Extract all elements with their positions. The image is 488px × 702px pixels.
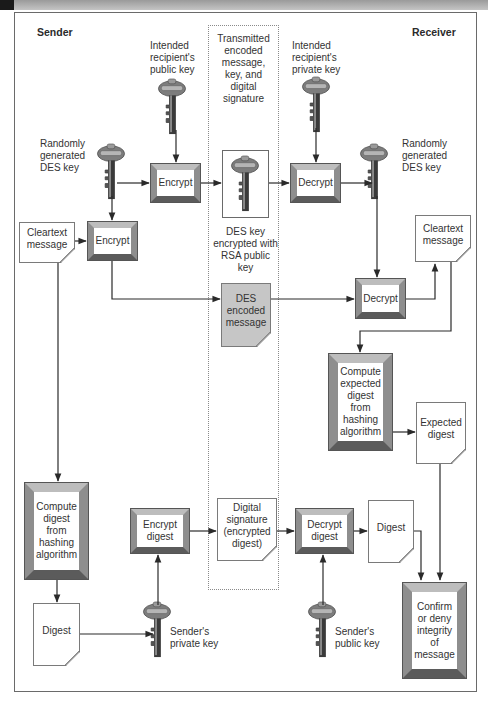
compute-digest-label: Compute digest from hashing algorithm: [34, 501, 79, 561]
digest-sender-label: Digest: [39, 625, 73, 645]
decrypt-digest-label: Decrypt digest: [302, 519, 347, 543]
encrypt-key-label: Encrypt: [159, 177, 193, 189]
recipient-public-key-label: Intended recipient's public key: [150, 40, 210, 76]
decrypt-message-label: Decrypt: [363, 293, 397, 305]
decrypt-key-label: Decrypt: [298, 177, 332, 189]
confirm-integrity-process: Confirm or deny integrity of message: [402, 582, 467, 679]
expected-digest-document: Expected digest: [416, 402, 466, 464]
digital-signature-document: Digital signature (encrypted digest): [217, 498, 277, 561]
decrypt-digest-process: Decrypt digest: [295, 508, 354, 554]
expected-digest-label: Expected digest: [417, 417, 465, 449]
digest-receiver-label: Digest: [374, 522, 408, 542]
encrypt-digest-label: Encrypt digest: [137, 519, 183, 543]
des-encoded-label: DES encoded message: [222, 293, 270, 337]
sender-public-key-label: Sender's public key: [335, 626, 385, 650]
decrypt-message-process: Decrypt: [355, 278, 406, 319]
receiver-des-key-label: Randomly generated DES key: [402, 138, 457, 174]
encrypt-message-process: Encrypt: [87, 221, 138, 261]
compute-expected-digest-process: Compute expected digest from hashing alg…: [328, 353, 393, 451]
sender-heading: Sender: [37, 26, 73, 38]
transmitted-label: Transmitted encoded message, key, and di…: [212, 33, 275, 105]
encrypt-message-label: Encrypt: [96, 235, 130, 247]
compute-expected-digest-label: Compute expected digest from hashing alg…: [338, 366, 383, 438]
encrypted-key-box: [222, 150, 269, 218]
encrypt-key-process: Encrypt: [150, 163, 201, 203]
recipient-private-key-label: Intended recipient's private key: [292, 40, 364, 76]
top-corner: [0, 0, 14, 10]
cleartext-message-sender: Cleartext message: [19, 222, 75, 263]
confirm-integrity-label: Confirm or deny integrity of message: [412, 601, 457, 661]
decrypt-key-process: Decrypt: [290, 163, 341, 203]
encrypt-digest-process: Encrypt digest: [130, 508, 190, 554]
digest-document-receiver: Digest: [368, 500, 414, 563]
receiver-heading: Receiver: [412, 26, 456, 38]
digest-document-sender: Digest: [33, 603, 80, 666]
cleartext-message-receiver: Cleartext message: [415, 215, 471, 262]
sender-des-key-label: Randomly generated DES key: [40, 138, 95, 174]
top-band: [0, 0, 488, 10]
sender-private-key-label: Sender's private key: [170, 626, 220, 650]
compute-digest-process: Compute digest from hashing algorithm: [24, 482, 89, 580]
des-encoded-message: DES encoded message: [221, 283, 271, 347]
encrypted-des-key-label: DES key encrypted with RSA public key: [212, 226, 279, 274]
